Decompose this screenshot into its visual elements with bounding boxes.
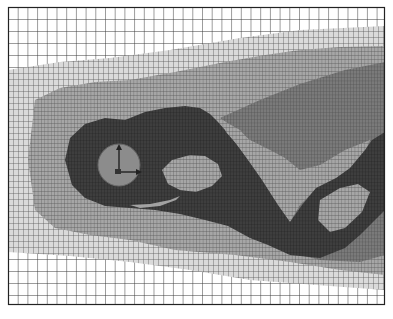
mesh-canvas: [0, 0, 393, 319]
mesh-diagram: [0, 0, 393, 319]
axis-origin: [115, 169, 121, 174]
